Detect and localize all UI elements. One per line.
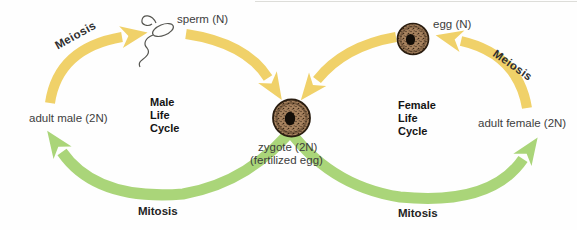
zygote-sublabel: (fertilized egg)	[250, 154, 323, 167]
sperm-label: sperm (N)	[177, 13, 228, 26]
female-title-line: Female	[398, 99, 436, 112]
arrow-egg-to-zygote	[317, 37, 396, 80]
zygote-nucleus	[285, 112, 295, 126]
female-title-line: Cycle	[398, 125, 436, 138]
female-title-line: Life	[398, 112, 436, 125]
zygote-cell	[273, 100, 310, 137]
male-life-cycle-title: Male Life Cycle	[150, 96, 179, 135]
mitosis-label-female: Mitosis	[398, 207, 438, 220]
egg-nucleus	[406, 34, 415, 45]
arrow-sperm-to-zygote	[186, 34, 268, 78]
adult-male-label: adult male (2N)	[29, 112, 108, 125]
mitosis-label-male: Mitosis	[138, 205, 178, 218]
egg-cell	[398, 24, 429, 55]
female-life-cycle-title: Female Life Cycle	[398, 99, 436, 138]
male-title-line: Male	[150, 96, 179, 109]
adult-female-label: adult female (2N)	[478, 117, 566, 130]
life-cycle-figure: sperm (N) egg (N) Meiosis Meiosis adult …	[0, 0, 577, 230]
egg-label: egg (N)	[433, 18, 471, 31]
male-title-line: Cycle	[150, 122, 179, 135]
male-title-line: Life	[150, 109, 179, 122]
zygote-label: zygote (2N)	[258, 141, 317, 154]
sperm-cell	[139, 16, 175, 67]
